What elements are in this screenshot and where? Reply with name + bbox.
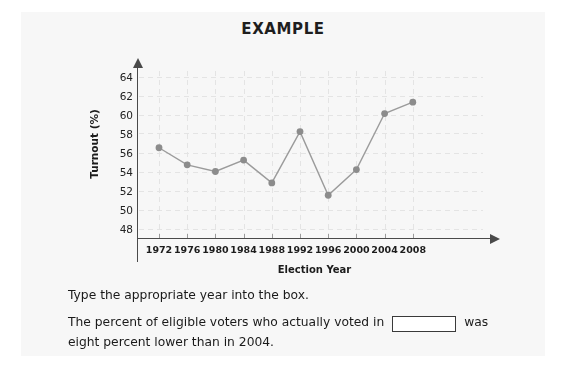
year-answer-input[interactable] [392, 316, 456, 332]
x-tick-mark [385, 234, 386, 238]
x-tick-mark [413, 234, 414, 238]
question-instruction: Type the appropriate year into the box. [68, 286, 518, 306]
x-tick-mark [244, 234, 245, 238]
example-card: EXAMPLE 646260585654525048 Turnout (%) E… [21, 12, 545, 356]
x-tick-mark [272, 234, 273, 238]
x-tick-mark [328, 234, 329, 238]
question-block: Type the appropriate year into the box. … [68, 286, 518, 353]
x-tick-mark [215, 234, 216, 238]
x-tick-mark [356, 234, 357, 238]
question-prompt: The percent of eligible voters who actua… [68, 313, 518, 353]
page-title: EXAMPLE [21, 20, 545, 38]
x-tick-label: 2008 [396, 244, 430, 255]
turnout-line-chart: 646260585654525048 Turnout (%) Election … [81, 42, 501, 282]
x-tick-mark [300, 234, 301, 238]
question-prompt-before: The percent of eligible voters who actua… [68, 315, 384, 329]
x-tick-mark [187, 234, 188, 238]
x-tick-mark [159, 234, 160, 238]
